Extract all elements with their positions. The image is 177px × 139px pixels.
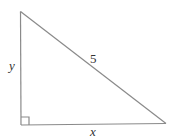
right-triangle-diagram: y 5 x: [0, 0, 177, 139]
hypotenuse: [21, 12, 167, 124]
label-y: y: [7, 58, 15, 73]
label-hypotenuse: 5: [90, 51, 97, 66]
label-x: x: [89, 124, 96, 139]
vertical-leg: [21, 12, 22, 126]
triangle: [21, 12, 167, 126]
right-angle-marker: [21, 117, 29, 125]
